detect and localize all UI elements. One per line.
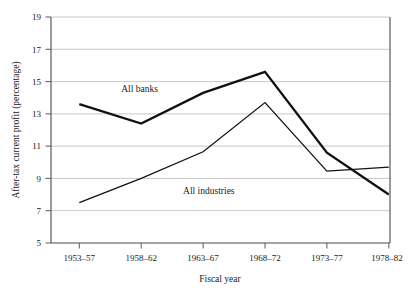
series-annotation-all-industries: All industries — [183, 186, 235, 196]
x-tick-label-1953-57: 1953–57 — [64, 253, 96, 263]
chart-figure: 19 17 15 13 11 9 7 5 1953–57 1958–62 196… — [0, 0, 413, 292]
y-tick-label-17: 17 — [32, 45, 42, 55]
x-tick-label-1978-82: 1978–82 — [371, 253, 403, 263]
y-axis-title: After-tax current profit (percentage) — [11, 61, 22, 198]
y-tick-label-13: 13 — [32, 109, 42, 119]
y-tick-label-7: 7 — [37, 206, 42, 216]
y-tick-label-11: 11 — [32, 141, 41, 151]
x-tick-label-1958-62: 1958–62 — [125, 253, 157, 263]
x-axis-title: Fiscal year — [199, 274, 241, 284]
x-tick-label-1963-67: 1963–67 — [187, 253, 219, 263]
y-tick-label-5: 5 — [37, 238, 42, 248]
x-tick-label-1968-72: 1968–72 — [249, 253, 281, 263]
series-annotation-all-banks: All banks — [121, 84, 158, 94]
y-tick-label-15: 15 — [32, 77, 42, 87]
y-tick-label-9: 9 — [37, 174, 42, 184]
line-chart: 19 17 15 13 11 9 7 5 1953–57 1958–62 196… — [0, 0, 413, 292]
x-tick-label-1973-77: 1973–77 — [311, 253, 343, 263]
y-tick-label-19: 19 — [32, 12, 42, 22]
